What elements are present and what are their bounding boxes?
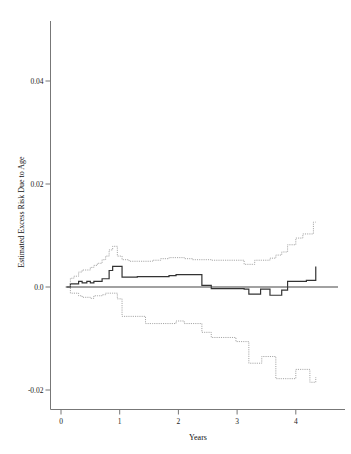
chart-series-line [67, 222, 316, 287]
chart-series-line [67, 266, 316, 295]
x-axis-tick-label: 3 [235, 417, 239, 426]
y-axis-title: Estimated Excess Risk Due to Age [17, 156, 26, 268]
y-axis-tick-label: 0.04 [30, 77, 43, 86]
x-axis-tick-label: 2 [177, 417, 181, 426]
y-axis-tick-label: 0.0 [34, 283, 44, 292]
x-axis-tick-label: 4 [294, 417, 298, 426]
x-axis-title: Years [189, 433, 207, 442]
chart-plot-area: -0.020.00.020.0401234Estimated Excess Ri… [0, 0, 351, 454]
x-axis-tick-label: 0 [59, 417, 63, 426]
y-axis-tick-label: -0.02 [28, 386, 44, 395]
x-axis-tick-label: 1 [118, 417, 122, 426]
y-axis-tick-label: 0.02 [30, 180, 43, 189]
chart-series-line [67, 287, 316, 382]
chart-figure: -0.020.00.020.0401234Estimated Excess Ri… [0, 0, 351, 454]
